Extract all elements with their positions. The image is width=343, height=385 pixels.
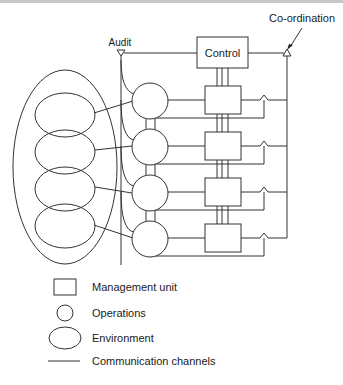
vsm-diagram: Audit Control Co-ordination — [0, 0, 343, 385]
channel-line — [95, 187, 132, 193]
arrowhead-icon — [287, 44, 293, 50]
legend-square-icon — [54, 279, 76, 295]
legend-circle-icon — [57, 305, 73, 321]
audit-curve — [121, 146, 134, 186]
operation-circle — [132, 129, 168, 165]
operation-row — [132, 83, 287, 119]
audit-triangle-icon — [117, 50, 125, 56]
bump-triangle — [260, 95, 287, 100]
management-unit-box — [205, 86, 241, 114]
channel-line — [95, 146, 132, 150]
operation-row — [132, 175, 287, 211]
legend-label: Communication channels — [92, 355, 216, 367]
bump-triangle — [260, 187, 287, 192]
audit-curve — [121, 100, 134, 140]
legend-label: Management unit — [92, 281, 177, 293]
audit-label: Audit — [109, 37, 132, 48]
management-unit-box — [205, 132, 241, 160]
operation-circle — [132, 83, 168, 119]
audit-curve — [121, 60, 134, 94]
environment-ellipses — [35, 93, 95, 248]
legend-ellipse-icon — [49, 327, 81, 349]
channel-line — [94, 101, 133, 113]
coordination-pointer-arrow — [290, 28, 302, 47]
management-unit-box — [205, 224, 241, 252]
operation-row — [132, 221, 287, 257]
audit-curve — [121, 192, 134, 232]
operation-circle — [132, 221, 168, 257]
legend: Management unit Operations Environment C… — [48, 279, 216, 367]
operation-row — [132, 129, 287, 165]
operation-circle — [132, 175, 168, 211]
legend-label: Operations — [92, 307, 146, 319]
control-label: Control — [205, 47, 240, 59]
coordination-label: Co-ordination — [269, 12, 335, 24]
environment-channels — [94, 101, 133, 238]
bump-triangle — [260, 233, 287, 238]
bump-triangle — [260, 141, 287, 146]
coordination-triangle-icon — [283, 49, 291, 56]
legend-label: Environment — [92, 332, 154, 344]
management-unit-box — [205, 178, 241, 206]
